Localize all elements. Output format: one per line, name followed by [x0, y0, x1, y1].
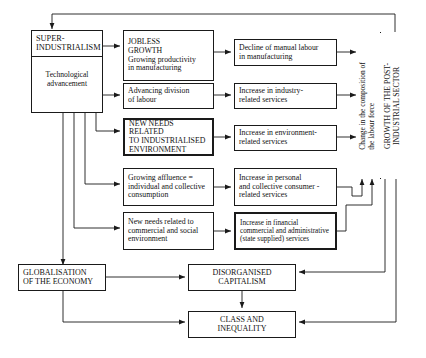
- financial-services-line3: (state supplied) services: [240, 235, 331, 243]
- node-growing-affluence[interactable]: Growing affluence = individual and colle…: [123, 168, 214, 206]
- super-industrialism-heading-line2: INDUSTRIALISM: [36, 43, 98, 52]
- node-industry-services[interactable]: Increase in industry- related services: [234, 83, 337, 109]
- node-change-composition[interactable]: Change in the composition of the labour …: [356, 32, 380, 179]
- node-financial-services[interactable]: Increase in financial commercial and adm…: [234, 212, 337, 250]
- node-class-inequality[interactable]: CLASS AND INEQUALITY: [188, 311, 296, 338]
- node-disorganised-capitalism[interactable]: DISORGANISED CAPITALISM: [188, 264, 296, 291]
- arrow-globalisation-to-class: [63, 291, 185, 322]
- node-jobless-growth[interactable]: JOBLESS GROWTH Growing productivity in m…: [123, 30, 214, 81]
- globalisation-line2: OF THE ECONOMY: [23, 278, 101, 287]
- financial-services-line1: Increase in financial: [240, 219, 331, 227]
- node-consumer-services[interactable]: Increase in personal and collective cons…: [234, 168, 337, 206]
- arrow-consumer-to-composition: [337, 179, 362, 196]
- environment-services-line2: related services: [239, 138, 332, 147]
- arrow-super-to-newneeds-commercial: [74, 113, 120, 228]
- node-new-needs-commercial[interactable]: New needs related to commercial and soci…: [123, 212, 214, 250]
- decline-manual-line2: in manufacturing: [239, 53, 332, 62]
- node-super-industrialism[interactable]: SUPER- INDUSTRIALISM Technological advan…: [31, 30, 103, 113]
- node-growth-post-industrial[interactable]: GROWTH OF THE POST- INDUSTRIAL SECTOR: [381, 32, 405, 179]
- super-industrialism-heading-line1: SUPER-: [36, 34, 98, 43]
- new-needs-industrialised-line1: NEW NEEDS RELATED: [129, 120, 208, 137]
- consumer-services-line3: related services: [239, 191, 332, 200]
- node-globalisation[interactable]: GLOBALISATION OF THE ECONOMY: [18, 264, 106, 291]
- new-needs-commercial-line3: environment: [128, 235, 209, 244]
- advancing-division-line2: of labour: [128, 96, 209, 105]
- node-decline-manual[interactable]: Decline of manual labour in manufacturin…: [234, 39, 337, 66]
- node-environment-services[interactable]: Increase in environment- related service…: [234, 125, 337, 151]
- arrow-feedback-to-superindustrialism: [52, 14, 395, 32]
- super-industrialism-body-line2: advancement: [46, 80, 89, 89]
- financial-services-line2: commercial and administrative: [240, 227, 331, 235]
- arrow-super-to-affluence: [85, 113, 120, 184]
- growing-affluence-line3: consumption: [128, 191, 209, 200]
- change-composition-line2: the labour force: [368, 62, 377, 149]
- arrow-super-to-newneeds: [96, 113, 120, 131]
- node-advancing-division[interactable]: Advancing division of labour: [123, 83, 214, 109]
- new-needs-industrialised-line3: ENVIRONMENT: [129, 146, 208, 155]
- industry-services-line2: related services: [239, 96, 332, 105]
- flowchart-diagram: SUPER- INDUSTRIALISM Technological advan…: [0, 0, 426, 358]
- disorganised-capitalism-line2: CAPITALISM: [193, 278, 291, 287]
- node-new-needs-industrialised[interactable]: NEW NEEDS RELATED TO INDUSTRIALISED ENVI…: [123, 118, 214, 156]
- jobless-growth-line4: in manufacturing: [128, 64, 209, 73]
- growth-post-industrial-line2: INDUSTRIAL SECTOR: [393, 63, 402, 149]
- class-inequality-line2: INEQUALITY: [193, 325, 291, 334]
